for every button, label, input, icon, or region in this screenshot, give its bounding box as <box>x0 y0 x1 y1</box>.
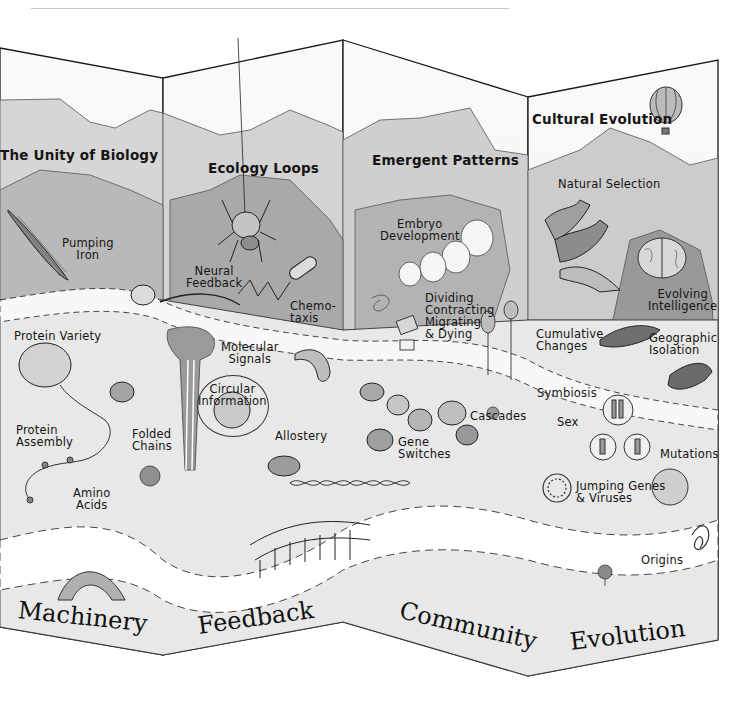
label-chemotaxis: Chemo- taxis <box>290 300 336 324</box>
title-unity-of-biology: The Unity of Biology <box>0 148 158 162</box>
brain-icon <box>638 238 686 278</box>
label-geographic-isolation: Geographic Isolation <box>649 332 717 356</box>
label-origins: Origins <box>641 554 683 566</box>
title-ecology-loops: Ecology Loops <box>208 161 319 175</box>
label-protein-variety: Protein Variety <box>14 330 101 342</box>
label-amino-acids: Amino Acids <box>73 487 111 511</box>
label-mutations: Mutations <box>660 448 719 460</box>
label-folded-chains: Folded Chains <box>132 428 172 452</box>
label-evolving-intelligence: Evolving Intelligence <box>648 288 717 312</box>
label-cascades: Cascades <box>470 410 526 422</box>
folding-screen-illustration <box>0 0 747 701</box>
label-molecular-signals: Molecular Signals <box>221 341 279 365</box>
label-sex: Sex <box>557 416 579 428</box>
circular-information-bubble <box>197 375 269 437</box>
title-emergent-patterns: Emergent Patterns <box>372 153 519 167</box>
label-cumulative-changes: Cumulative Changes <box>536 328 604 352</box>
label-pumping-iron: Pumping Iron <box>62 237 114 261</box>
label-neural-feedback: Neural Feedback <box>186 265 242 289</box>
label-jumping-genes-viruses: Jumping Genes & Viruses <box>576 480 666 504</box>
label-gene-switches: Gene Switches <box>398 436 451 460</box>
label-symbiosis: Symbiosis <box>537 387 597 399</box>
label-embryo-development: Embryo Development <box>380 218 460 242</box>
label-natural-selection: Natural Selection <box>558 178 660 190</box>
label-protein-assembly: Protein Assembly <box>16 424 73 448</box>
label-dividing-contracting-migrating-dying: Dividing Contracting Migrating & Dying <box>425 292 494 340</box>
label-allostery: Allostery <box>275 430 327 442</box>
title-cultural-evolution: Cultural Evolution <box>532 112 672 126</box>
